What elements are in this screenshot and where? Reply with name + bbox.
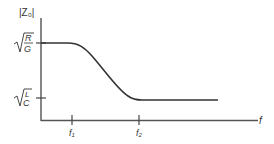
x-tick-label-f1: f1: [69, 128, 75, 138]
label-sqrt-lc: L C: [14, 89, 32, 108]
impedance-diagram: |Z₀| R G L C f1 f2 f: [0, 0, 274, 144]
label-sqrt-rg: R G: [14, 33, 34, 54]
svg-text:C: C: [23, 98, 30, 108]
svg-text:R: R: [25, 33, 32, 43]
impedance-curve: [41, 43, 218, 100]
svg-text:G: G: [24, 44, 31, 54]
x-axis-label: f: [259, 115, 263, 126]
x-tick-label-f2: f2: [136, 128, 143, 138]
y-axis-label: |Z₀|: [19, 7, 34, 18]
